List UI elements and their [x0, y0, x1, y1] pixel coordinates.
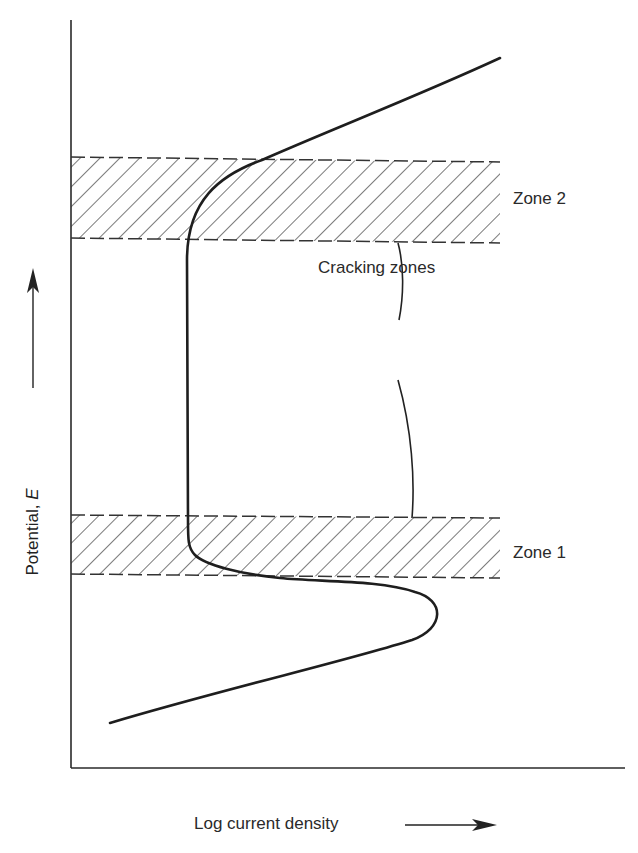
y-axis-label-text: Potential,: [23, 500, 42, 576]
zone2-label: Zone 2: [513, 189, 566, 209]
y-axis-label-container: Potential, E: [8, 272, 58, 532]
y-axis-label: Potential, E: [23, 489, 43, 576]
polarization-diagram: [0, 0, 638, 853]
zone2-band: [71, 157, 500, 243]
y-axis-label-symbol: E: [23, 489, 42, 500]
axes: [71, 20, 625, 768]
right-arrow-icon: [405, 819, 497, 831]
zone1-label: Zone 1: [513, 543, 566, 563]
zone1-band: [71, 515, 500, 578]
x-axis-label: Log current density: [194, 814, 339, 834]
cracking-zones-label: Cracking zones: [318, 258, 435, 278]
cracking-zones-brace: [398, 243, 413, 518]
